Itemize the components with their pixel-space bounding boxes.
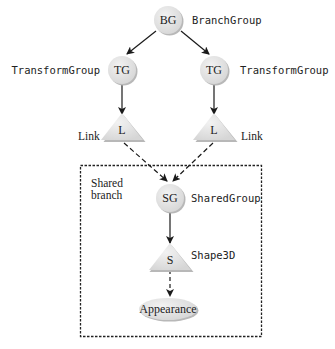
sharedgroup-symbol: SG bbox=[162, 191, 178, 205]
edge-bg-tg-left bbox=[127, 31, 156, 54]
shape3d-label: Shape3D bbox=[191, 249, 235, 261]
link-right-symbol: L bbox=[210, 123, 217, 137]
branchgroup-node: BG bbox=[154, 6, 184, 36]
branchgroup-label: BranchGroup bbox=[192, 14, 262, 26]
transformgroup-right-symbol: TG bbox=[206, 63, 222, 77]
shared-branch-label-line1: Shared bbox=[91, 177, 123, 189]
shape3d-node: S bbox=[149, 243, 194, 272]
sharedgroup-label: SharedGroup bbox=[191, 192, 261, 204]
transformgroup-left-label: TransformGroup bbox=[11, 64, 100, 76]
link-left-label: Link bbox=[78, 130, 100, 142]
edge-link-right-sg bbox=[173, 143, 213, 181]
transformgroup-left-symbol: TG bbox=[114, 63, 130, 77]
transformgroup-right-node: TG bbox=[200, 56, 230, 86]
shared-branch-label-line2: branch bbox=[91, 189, 123, 201]
appearance-symbol: Appearance bbox=[139, 302, 196, 316]
transformgroup-left-node: TG bbox=[108, 56, 138, 86]
transformgroup-right-label: TransformGroup bbox=[240, 64, 329, 76]
link-right-label: Link bbox=[241, 130, 263, 142]
edge-bg-tg-right bbox=[181, 31, 209, 54]
appearance-node: Appearance bbox=[139, 298, 199, 322]
link-left-node: L bbox=[101, 113, 146, 142]
edge-link-left-sg bbox=[124, 143, 167, 181]
sharedgroup-node: SG bbox=[156, 184, 186, 214]
shape3d-symbol: S bbox=[167, 253, 174, 267]
scene-graph-diagram: BG BranchGroup TG TransformGroup TG Tran… bbox=[0, 0, 335, 349]
link-right-node: L bbox=[193, 113, 238, 142]
branchgroup-symbol: BG bbox=[160, 13, 177, 27]
link-left-symbol: L bbox=[118, 123, 125, 137]
